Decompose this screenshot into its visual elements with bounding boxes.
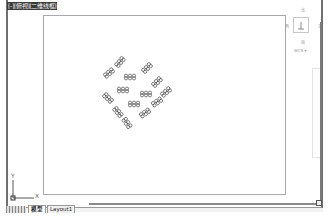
wcs-dropdown[interactable]: WCS ▾ xyxy=(294,48,307,53)
horizontal-scrollbar[interactable] xyxy=(89,203,317,205)
viewcube-south-label[interactable]: 南 xyxy=(301,40,305,45)
tab-layout1[interactable]: Layout1 xyxy=(47,205,75,213)
chain-link-block[interactable] xyxy=(140,91,151,97)
chain-link-block[interactable] xyxy=(102,92,114,104)
chain-link-block[interactable] xyxy=(121,117,132,130)
chain-link-block[interactable] xyxy=(139,107,152,118)
chain-link-block[interactable] xyxy=(124,74,135,80)
viewcube-west-label[interactable]: 西 xyxy=(285,24,289,29)
viewcube[interactable]: 北 西 东 南 WCS ▾ xyxy=(284,8,324,60)
navigation-bar-edge xyxy=(320,22,322,206)
chain-link-block[interactable] xyxy=(114,56,126,68)
chain-link-block[interactable] xyxy=(128,101,139,107)
ucs-y-label: Y xyxy=(10,172,15,179)
viewcube-axis-icon xyxy=(294,19,308,33)
layout-tabs: 模型 Layout1 xyxy=(6,205,76,213)
chain-link-block[interactable] xyxy=(160,86,172,98)
chain-link-block[interactable] xyxy=(103,67,115,79)
viewcube-top-face[interactable] xyxy=(293,17,309,33)
chain-link-block[interactable] xyxy=(117,87,128,93)
viewcube-north-label[interactable]: 北 xyxy=(301,8,305,13)
chain-link-block[interactable] xyxy=(151,76,163,88)
tab-navigation-arrows[interactable] xyxy=(6,206,26,213)
ucs-icon: Y X xyxy=(10,172,42,202)
tab-model[interactable]: 模型 xyxy=(28,205,46,213)
chain-link-block[interactable] xyxy=(151,96,164,107)
ucs-x-label: X xyxy=(35,192,39,199)
scrollbar-corner xyxy=(316,200,322,206)
chain-link-block[interactable] xyxy=(141,62,153,74)
chain-link-block[interactable] xyxy=(112,106,124,118)
